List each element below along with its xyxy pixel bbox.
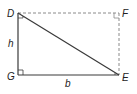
- right-angle-marker-G: [18, 70, 23, 75]
- vertex-label-E: E: [122, 72, 129, 83]
- triangle-diagram: D F G E h b: [0, 0, 137, 94]
- vertex-label-F: F: [122, 8, 129, 19]
- right-angle-marker-F: [114, 13, 119, 18]
- side-label-b: b: [65, 78, 71, 89]
- segment-DE: [18, 13, 119, 75]
- side-label-h: h: [8, 38, 14, 49]
- vertex-label-G: G: [7, 71, 15, 82]
- vertex-label-D: D: [7, 8, 14, 19]
